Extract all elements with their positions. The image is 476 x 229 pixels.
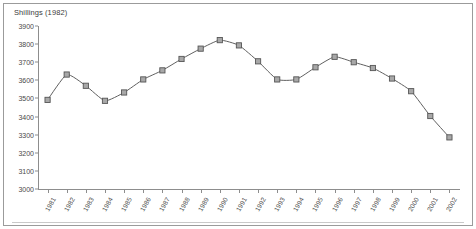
x-axis-tick-mark — [48, 190, 49, 193]
x-axis-tick-mark — [143, 190, 144, 193]
x-axis-tick-mark — [411, 190, 412, 193]
x-axis-tick-mark — [392, 190, 393, 193]
y-axis-tick-label: 3500 — [18, 95, 34, 102]
x-axis-tick-mark — [201, 190, 202, 193]
x-axis-tick-mark — [335, 190, 336, 193]
x-axis-tick-mark — [67, 190, 68, 193]
y-axis-tick-label: 3200 — [18, 149, 34, 156]
x-axis-tick-mark — [105, 190, 106, 193]
x-axis-tick-mark — [182, 190, 183, 193]
x-axis-tick-mark — [449, 190, 450, 193]
bottom-divider — [12, 222, 464, 223]
x-axis-tick-mark — [354, 190, 355, 193]
y-axis-tick-label: 3600 — [18, 77, 34, 84]
x-axis-tick-mark — [277, 190, 278, 193]
x-axis-tick-mark — [296, 190, 297, 193]
x-axis-tick-mark — [162, 190, 163, 193]
x-axis-line — [38, 189, 460, 190]
x-axis-tick-mark — [124, 190, 125, 193]
y-axis-tick-label: 3700 — [18, 59, 34, 66]
y-axis-tick-label: 3000 — [18, 186, 34, 193]
chart-figure: Shillings (1982) 39003800370036003500340… — [0, 0, 476, 229]
y-axis-tick-label: 3900 — [18, 23, 34, 30]
x-axis-tick-mark — [220, 190, 221, 193]
y-axis-tick-labels: 3900380037003600350034003300320031003000 — [0, 0, 34, 229]
y-axis-line — [38, 26, 39, 190]
y-axis-tick-label: 3100 — [18, 167, 34, 174]
y-axis-tick-label: 3800 — [18, 41, 34, 48]
y-axis-tick-label: 3400 — [18, 113, 34, 120]
y-axis-tick-label: 3300 — [18, 131, 34, 138]
x-axis-tick-mark — [258, 190, 259, 193]
x-axis-tick-mark — [315, 190, 316, 193]
x-axis-tick-mark — [430, 190, 431, 193]
x-axis-tick-mark — [373, 190, 374, 193]
x-axis-tick-mark — [86, 190, 87, 193]
x-axis-tick-mark — [239, 190, 240, 193]
